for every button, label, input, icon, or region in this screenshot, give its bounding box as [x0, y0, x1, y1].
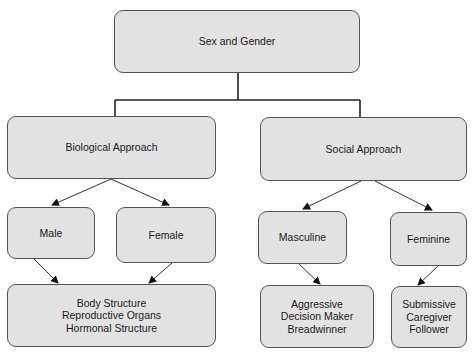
arrow-feminine-to-feminine-traits [418, 266, 438, 285]
node-female: Female [116, 207, 216, 263]
arrow-social-to-feminine [375, 181, 432, 210]
arrow-female-to-biological-traits [149, 263, 172, 283]
node-label: Male [40, 227, 63, 240]
arrow-social-to-masculine [303, 181, 361, 209]
node-male: Male [7, 207, 95, 259]
node-label: Masculine [279, 231, 326, 244]
trait-breadwinner: Breadwinner [288, 323, 347, 336]
trait-body-structure: Body Structure [77, 297, 146, 310]
node-biological-approach: Biological Approach [7, 116, 216, 179]
node-label: Sex and Gender [199, 35, 275, 48]
node-feminine-traits: Submissive Caregiver Follower [391, 286, 467, 348]
arrow-biological-to-female [111, 179, 169, 205]
arrow-masculine-to-masculine-traits [299, 264, 320, 284]
node-label: Social Approach [326, 143, 402, 156]
trait-reproductive-organs: Reproductive Organs [62, 309, 161, 322]
root-connector [115, 72, 360, 117]
node-label: Biological Approach [65, 141, 157, 154]
node-social-approach: Social Approach [260, 117, 467, 181]
trait-caregiver: Caregiver [406, 311, 452, 324]
trait-hormonal-structure: Hormonal Structure [66, 322, 157, 335]
arrow-biological-to-male [52, 179, 111, 205]
arrow-male-to-biological-traits [34, 259, 58, 283]
node-label: Female [148, 229, 183, 242]
trait-decision-maker: Decision Maker [281, 310, 353, 323]
sex-and-gender-diagram: Sex and Gender Biological Approach Socia… [0, 0, 475, 354]
node-biological-traits: Body Structure Reproductive Organs Hormo… [7, 284, 216, 347]
node-feminine: Feminine [390, 212, 467, 266]
trait-submissive: Submissive [402, 298, 456, 311]
node-masculine-traits: Aggressive Decision Maker Breadwinner [260, 285, 374, 348]
node-masculine: Masculine [258, 211, 347, 264]
trait-aggressive: Aggressive [291, 298, 343, 311]
node-label: Feminine [407, 233, 450, 246]
trait-follower: Follower [409, 323, 449, 336]
node-sex-and-gender: Sex and Gender [114, 10, 360, 73]
